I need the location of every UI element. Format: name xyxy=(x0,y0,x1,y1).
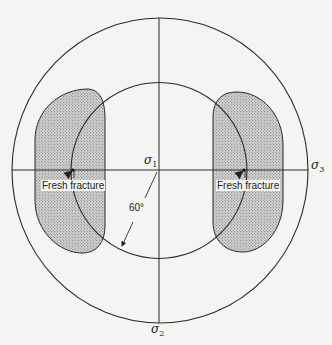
right-fresh-fracture-label: Fresh fracture xyxy=(216,180,280,191)
diagram-canvas: σ1 σ3 σ2 60° Fresh fracture Fresh fractu… xyxy=(0,0,332,345)
sigma2-label: σ2 xyxy=(151,322,164,338)
sigma2-symbol: σ xyxy=(151,322,159,336)
left-shaded-region xyxy=(35,89,105,253)
sigma1-subscript: 1 xyxy=(152,160,157,169)
left-fresh-fracture-label: Fresh fracture xyxy=(41,180,105,191)
sigma1-label: σ1 xyxy=(144,153,157,169)
diagram-svg xyxy=(0,0,332,345)
sigma3-symbol: σ xyxy=(311,158,319,172)
right-shaded-region xyxy=(213,92,283,252)
angle-arrow-line xyxy=(122,222,133,246)
angle-label: 60° xyxy=(129,202,144,213)
sigma3-label: σ3 xyxy=(311,158,324,174)
sigma1-symbol: σ xyxy=(144,153,152,167)
sigma2-subscript: 2 xyxy=(159,329,164,338)
angle-line xyxy=(145,172,157,198)
sigma3-subscript: 3 xyxy=(319,165,324,174)
